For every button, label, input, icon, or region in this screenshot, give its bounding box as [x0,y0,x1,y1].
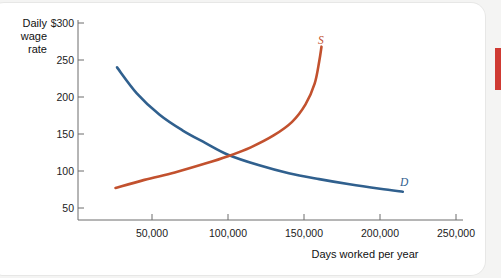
y-tick-label-250: 250 [56,54,74,66]
x-tick-label-150000: 150,000 [285,227,323,239]
demand-curve-label: D [399,176,409,188]
y-axis-title-line-3: rate [28,43,47,55]
supply-curve [116,47,322,188]
scroll-indicator[interactable] [495,48,501,90]
supply-demand-chart: $300 250 200 150 100 50 Daily wage rate … [0,0,501,278]
x-tick-label-50000: 50,000 [136,227,168,239]
y-tick-label-200: 200 [56,91,74,103]
y-tick-label-150: 150 [56,128,74,140]
y-tick-label-300: $300 [51,17,75,29]
y-axis-title-line-1: Daily [23,17,48,29]
x-axis-ticks [152,214,456,220]
y-axis-ticks [78,23,84,208]
x-tick-label-100000: 100,000 [209,227,247,239]
x-tick-label-200000: 200,000 [361,227,399,239]
supply-curve-label: S [318,34,324,46]
y-axis-title-line-2: wage [20,30,47,42]
x-tick-label-250000: 250,000 [437,227,475,239]
chart-svg: $300 250 200 150 100 50 Daily wage rate … [0,0,501,278]
x-axis-title: Days worked per year [312,248,419,260]
demand-curve [117,67,403,191]
y-tick-label-50: 50 [62,202,74,214]
page-root: $300 250 200 150 100 50 Daily wage rate … [0,0,501,278]
y-tick-label-100: 100 [56,165,74,177]
